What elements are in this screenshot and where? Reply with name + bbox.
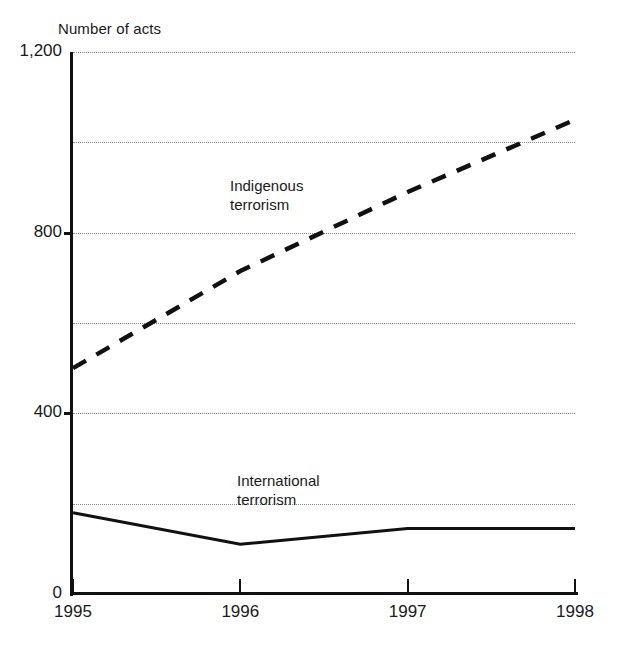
y-tick-mark-800 (64, 232, 73, 235)
gridline-1000 (73, 142, 575, 143)
y-tick-mark-400 (64, 412, 73, 415)
gridline-200 (73, 504, 575, 505)
x-tick-mark-1998 (574, 579, 576, 593)
series-label-indigenous-terrorism: Indigenous terrorism (230, 176, 303, 214)
x-axis-line (70, 592, 578, 595)
gridline-600 (73, 323, 575, 324)
gridline-400 (73, 413, 575, 414)
plot-area (73, 52, 575, 594)
x-tick-mark-1997 (407, 579, 409, 593)
y-tick-label-400: 400 (34, 402, 62, 422)
y-axis-line (70, 52, 73, 596)
y-tick-label-0: 0 (53, 583, 62, 603)
x-tick-mark-1996 (239, 579, 241, 593)
x-tick-label-1998: 1998 (556, 602, 594, 622)
y-axis-labels: 1,2008004000 (0, 0, 62, 655)
series-label-international-terrorism: International terrorism (237, 471, 320, 509)
x-tick-label-1995: 1995 (54, 602, 92, 622)
x-tick-label-1997: 1997 (389, 602, 427, 622)
x-tick-mark-1995 (72, 579, 74, 593)
gridline-800 (73, 233, 575, 234)
line-chart: Number of acts 1,2008004000 199519961997… (0, 0, 617, 655)
gridline-1200 (73, 52, 575, 53)
x-tick-label-1996: 1996 (221, 602, 259, 622)
y-tick-label-1200: 1,200 (19, 41, 62, 61)
y-tick-label-800: 800 (34, 222, 62, 242)
y-axis-title: Number of acts (58, 20, 161, 37)
